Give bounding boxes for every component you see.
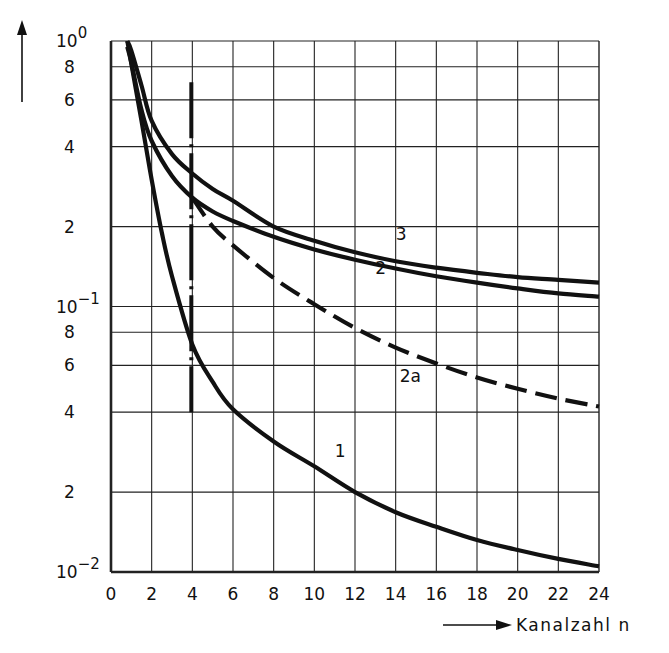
x-axis-label: Kanalzahl n [516,615,631,635]
curve-3 [127,41,599,283]
curve-2 [127,47,599,297]
curve-label-3: 3 [396,224,407,244]
y-tick-label: 2 [64,217,75,237]
x-tick-label: 18 [466,584,488,604]
x-axis-ticks: 024681012141618202224 [106,584,610,604]
y-tick-label: 8 [64,57,75,77]
x-tick-label: 2 [146,584,157,604]
x-tick-label: 10 [304,584,326,604]
x-tick-label: 8 [268,584,279,604]
x-tick-label: 20 [507,584,529,604]
chart: 100864210−1864210−2 02468101214161820222… [0,0,669,653]
y-tick-label: 100 [56,24,87,51]
curve-label-1: 1 [335,441,346,461]
x-axis-arrow-icon [496,620,512,630]
y-axis-arrow-icon [17,20,27,102]
x-tick-label: 22 [548,584,570,604]
x-tick-label: 4 [187,584,198,604]
y-tick-label: 4 [64,137,75,157]
y-tick-label: 6 [64,355,75,375]
x-tick-label: 16 [426,584,448,604]
y-tick-label: 6 [64,90,75,110]
y-tick-label: 10−2 [56,555,100,582]
y-tick-label: 2 [64,482,75,502]
curve-1 [127,41,599,566]
x-tick-label: 12 [344,584,366,604]
curve-label-2a: 2a [400,366,421,386]
x-axis-title: Kanalzahl n [443,615,631,635]
curve-label-2: 2 [375,258,386,278]
x-tick-label: 6 [228,584,239,604]
x-tick-label: 0 [106,584,117,604]
y-tick-label: 10−1 [56,290,100,317]
y-axis-ticks: 100864210−1864210−2 [56,24,100,582]
curves [127,41,599,566]
x-tick-label: 14 [385,584,407,604]
y-tick-label: 8 [64,322,75,342]
y-tick-label: 4 [64,402,75,422]
x-tick-label: 24 [588,584,610,604]
